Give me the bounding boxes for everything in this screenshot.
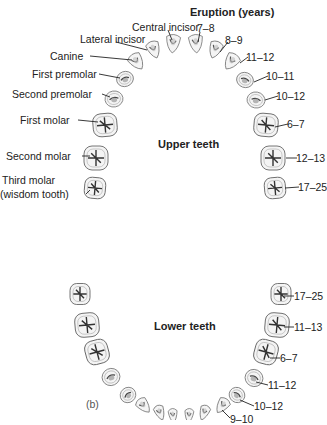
lower-left-canine — [134, 396, 154, 416]
lower-right-third-molar — [271, 284, 291, 305]
lower-left-first-premolar — [117, 384, 139, 406]
lower-left-central-incisor — [168, 408, 178, 420]
panel-label: (b) — [86, 398, 99, 410]
label-wisdom-tooth: (wisdom tooth) — [0, 188, 69, 200]
age-canine-lower: 9–10 — [230, 413, 253, 425]
lower-right-second-premolar — [242, 366, 265, 389]
upper-right-central-incisor — [188, 34, 204, 54]
upper-left-first-molar — [92, 112, 118, 137]
leader-lower-10-12 — [240, 400, 254, 406]
lower-left-second-premolar — [99, 365, 122, 388]
leader-age-17-25 — [285, 187, 299, 188]
label-canine: Canine — [50, 50, 83, 62]
label-lateral-incisor: Lateral incisor — [80, 33, 145, 45]
lower-left-lateral-incisor — [153, 404, 168, 420]
lower-right-central-incisor — [184, 408, 194, 420]
upper-right-first-premolar — [234, 70, 255, 90]
lower-right-lateral-incisor — [197, 404, 212, 420]
leader-canine — [90, 56, 132, 60]
lower-teeth-title: Lower teeth — [154, 320, 216, 332]
upper-left-third-molar — [84, 177, 107, 200]
eruption-header: Eruption (years) — [190, 6, 274, 18]
leader-lower-9-10 — [222, 410, 230, 418]
age-second-molar-lower: 11–13 — [294, 321, 322, 333]
upper-left-central-incisor — [165, 34, 181, 54]
lower-left-second-molar — [74, 312, 100, 338]
leader-first-premolar — [99, 74, 120, 78]
upper-right-second-molar — [261, 146, 285, 170]
age-first-molar-upper: 6–7 — [287, 118, 305, 130]
label-third-molar: Third molar — [2, 174, 55, 186]
upper-right-second-premolar — [246, 91, 267, 110]
age-first-premolar-lower: 10–12 — [254, 400, 283, 412]
age-central-incisor-upper: 7–8 — [197, 22, 215, 34]
label-first-premolar: First premolar — [32, 68, 97, 80]
age-first-molar-lower: 6–7 — [280, 352, 298, 364]
upper-left-second-molar — [84, 146, 108, 170]
age-third-molar-upper: 17–25 — [298, 181, 327, 193]
label-first-molar: First molar — [20, 114, 70, 126]
label-second-molar: Second molar — [6, 150, 71, 162]
lower-right-canine — [212, 396, 231, 416]
age-second-premolar-upper: 10–12 — [276, 90, 305, 102]
label-central-incisor: Central incisor — [132, 21, 199, 33]
lower-left-first-molar — [83, 337, 111, 366]
upper-teeth-title: Upper teeth — [158, 138, 219, 150]
age-second-molar-upper: 12–13 — [296, 152, 325, 164]
upper-left-canine — [126, 51, 148, 73]
upper-right-first-molar — [253, 112, 279, 137]
upper-left-second-premolar — [104, 90, 125, 109]
age-second-premolar-lower: 11–12 — [268, 379, 296, 391]
lower-right-first-molar — [252, 337, 280, 366]
age-canine-upper: 11–12 — [246, 51, 274, 63]
age-first-premolar-upper: 10–11 — [266, 70, 294, 82]
age-third-molar-lower: 17–25 — [294, 290, 323, 302]
upper-right-third-molar — [264, 177, 287, 200]
upper-left-lateral-incisor — [145, 39, 163, 60]
upper-left-first-premolar — [114, 69, 135, 89]
label-second-premolar: Second premolar — [12, 88, 92, 100]
age-lateral-incisor-upper: 8–9 — [225, 34, 243, 46]
lower-left-third-molar — [70, 284, 90, 305]
lower-right-second-molar — [264, 312, 290, 338]
upper-right-canine — [220, 51, 242, 73]
